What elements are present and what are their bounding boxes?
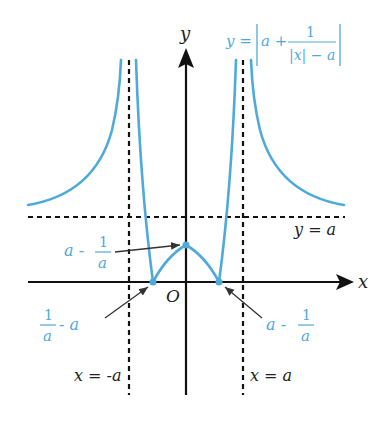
left-zero-den: a	[43, 327, 52, 345]
origin-label: O	[166, 286, 180, 306]
equation-denominator: |x| − a	[289, 47, 335, 64]
left-zero-pointer-arrow	[105, 287, 148, 318]
right-zero-num: 1	[302, 307, 311, 323]
peak-label-prefix: a -	[64, 241, 84, 260]
function-equation: y = a + 1 |x| − a	[225, 24, 340, 66]
equation-numerator: 1	[306, 24, 315, 40]
right-zero-den: a	[301, 327, 310, 345]
right-zero-point	[216, 279, 223, 286]
graph-canvas: y x O x = -a x = a y = a y = a + 1 |x| −…	[0, 0, 388, 422]
curve-center-right	[186, 245, 219, 282]
curve-right-outer	[251, 60, 344, 205]
left-zero-suffix: - a	[59, 315, 79, 334]
equation-a-plus: a +	[261, 32, 287, 50]
asymptote-label-y-a: y = a	[293, 220, 336, 239]
left-zero-point	[150, 279, 157, 286]
curve-center-left	[153, 245, 186, 282]
x-axis-label: x	[358, 271, 368, 292]
peak-point	[183, 242, 190, 249]
curve-left-outer	[28, 60, 121, 205]
left-zero-num: 1	[44, 307, 53, 323]
equation-lhs: y =	[225, 32, 252, 50]
peak-label: a - 1 a	[64, 234, 111, 272]
peak-label-den: a	[98, 254, 107, 272]
peak-label-num: 1	[99, 234, 108, 250]
left-zero-label: 1 a - a	[40, 307, 79, 345]
curve-right-inner	[219, 60, 236, 282]
asymptote-label-x-a: x = a	[250, 366, 292, 385]
right-zero-prefix: a -	[266, 315, 286, 334]
y-axis-label: y	[179, 23, 191, 44]
asymptote-label-x-neg-a: x = -a	[74, 366, 122, 385]
right-zero-label: a - 1 a	[266, 307, 314, 345]
